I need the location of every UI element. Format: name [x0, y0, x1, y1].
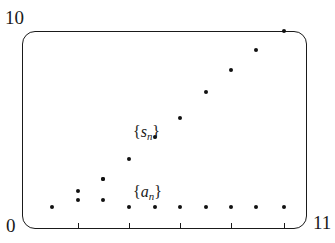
plot-frame	[22, 31, 307, 229]
series-sn-close-brace: }	[152, 123, 160, 140]
series-an-close-brace: }	[154, 183, 162, 200]
x-axis-tick-2	[180, 223, 181, 229]
series-sn-open-brace: {	[133, 123, 141, 140]
x-axis-max-label: 11	[313, 213, 331, 232]
series-an-symbol: a	[141, 183, 149, 200]
x-axis-tick-4	[284, 223, 285, 229]
x-axis-tick-0	[78, 223, 79, 229]
series-sn-subscript: n	[147, 130, 152, 142]
y-axis-max-label: 10	[5, 8, 24, 27]
scatter-plot-figure: 10 0 11 {sn} {an}	[0, 0, 335, 243]
axis-origin-label: 0	[6, 216, 16, 235]
series-label-terms: {an}	[133, 184, 162, 200]
series-an-subscript: n	[149, 190, 154, 202]
series-label-partial-sums: {sn}	[133, 124, 160, 140]
series-sn-symbol: s	[141, 123, 147, 140]
x-axis-tick-3	[231, 223, 232, 229]
series-an-open-brace: {	[133, 183, 141, 200]
x-axis-tick-1	[129, 223, 130, 229]
